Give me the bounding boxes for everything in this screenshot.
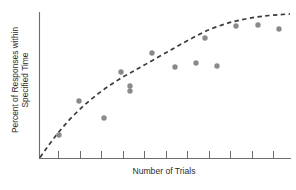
scatter-plot-canvas — [0, 0, 296, 190]
axes-group — [39, 12, 291, 159]
data-point — [127, 83, 132, 88]
data-point — [202, 35, 207, 40]
data-point — [214, 63, 219, 68]
data-points-group — [56, 22, 281, 137]
data-point — [276, 26, 281, 31]
chart-container: Percent of Responses within Specified Ti… — [0, 0, 296, 190]
data-point — [118, 69, 123, 74]
x-axis-label: Number of Trials — [39, 166, 289, 176]
data-point — [172, 64, 177, 69]
data-point — [233, 23, 238, 28]
x-axis-ticks — [59, 151, 274, 159]
data-point — [149, 50, 154, 55]
data-point — [127, 88, 132, 93]
data-point — [76, 98, 81, 103]
trend-curve — [40, 14, 290, 158]
data-point — [193, 60, 198, 65]
data-point — [101, 115, 106, 120]
data-point — [255, 22, 260, 27]
data-point — [56, 132, 61, 137]
